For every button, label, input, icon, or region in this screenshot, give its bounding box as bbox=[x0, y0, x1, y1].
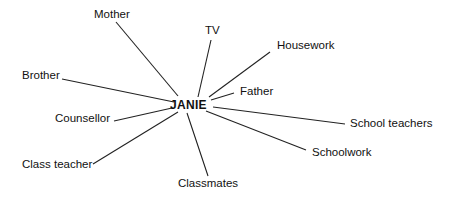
node-school-teachers: School teachers bbox=[350, 118, 432, 130]
node-brother: Brother bbox=[22, 70, 60, 82]
connector-counsellor bbox=[114, 108, 172, 121]
node-class-teacher: Class teacher bbox=[22, 159, 92, 171]
node-father: Father bbox=[240, 86, 273, 98]
connector-classmates bbox=[187, 113, 208, 176]
connector-brother bbox=[62, 79, 174, 102]
node-schoolwork: Schoolwork bbox=[312, 147, 371, 159]
connector-tv bbox=[198, 40, 211, 97]
connector-father bbox=[211, 93, 234, 100]
node-classmates: Classmates bbox=[178, 178, 238, 190]
node-counsellor: Counsellor bbox=[55, 113, 110, 125]
node-housework: Housework bbox=[277, 40, 335, 52]
connector-mother bbox=[116, 22, 178, 96]
node-mother: Mother bbox=[94, 9, 130, 21]
node-tv: TV bbox=[205, 25, 220, 37]
connector-lines bbox=[0, 0, 452, 202]
center-node-janie: JANIE bbox=[170, 99, 207, 111]
